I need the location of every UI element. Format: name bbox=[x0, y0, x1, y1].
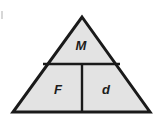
figure-canvas: M F d bbox=[0, 0, 162, 126]
formula-triangle-diagram: M F d bbox=[0, 0, 162, 126]
cell-label-top: M bbox=[76, 38, 88, 53]
cell-label-bottom-left: F bbox=[54, 82, 63, 97]
cell-label-bottom-right: d bbox=[102, 82, 111, 97]
